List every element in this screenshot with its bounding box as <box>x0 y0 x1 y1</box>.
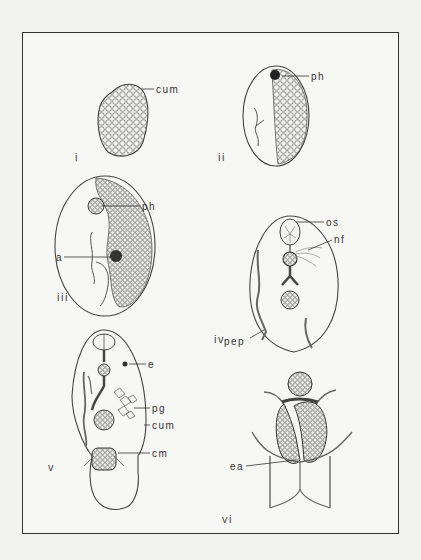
panel-numeral-v: v <box>48 462 55 473</box>
panel-numeral-iii: iii <box>57 292 69 303</box>
label-ea-vi: ea <box>230 462 244 472</box>
specimen-drawings <box>0 0 421 560</box>
label-nf-iv: nf <box>334 235 345 245</box>
label-ph-ii: ph <box>311 72 325 82</box>
panel-iii-drawing <box>55 176 155 316</box>
label-ph-iii: ph <box>142 202 156 212</box>
label-e-v: e <box>148 360 155 370</box>
panel-i-drawing <box>98 84 154 156</box>
panel-numeral-i: i <box>75 152 79 163</box>
panel-numeral-ii: ii <box>218 152 226 163</box>
label-cm-v: cm <box>152 449 168 459</box>
label-cum-i: cum <box>156 85 179 95</box>
panel-v-drawing <box>72 330 150 510</box>
panel-iv-drawing <box>250 216 338 352</box>
panel-numeral-iv: iv <box>214 334 225 345</box>
panel-vi-drawing <box>246 372 352 508</box>
label-pep-iv: pep <box>224 337 245 347</box>
label-cum-v: cum <box>152 421 175 431</box>
panel-numeral-vi: vi <box>222 514 233 525</box>
label-os-iv: os <box>326 218 340 228</box>
label-a-iii: a <box>56 253 63 263</box>
label-pg-v: pg <box>152 404 166 414</box>
panel-ii-drawing <box>243 66 309 166</box>
